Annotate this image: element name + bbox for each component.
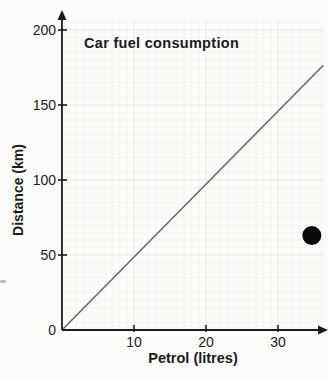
x-tick-label: 10 bbox=[126, 334, 142, 350]
x-tick-label: 20 bbox=[198, 334, 214, 350]
chart-canvas: 102030050100150200 bbox=[0, 0, 328, 381]
scan-artifact-mark bbox=[0, 280, 6, 283]
y-tick-label: 200 bbox=[33, 22, 57, 38]
x-axis-arrowhead bbox=[318, 326, 328, 335]
x-tick-label: 30 bbox=[270, 334, 286, 350]
y-tick-label: 150 bbox=[33, 97, 57, 113]
fuel-consumption-chart: 102030050100150200 Car fuel consumption … bbox=[0, 0, 328, 381]
y-tick-label: 100 bbox=[33, 172, 57, 188]
marked-point bbox=[302, 226, 321, 245]
origin-label: 0 bbox=[48, 322, 56, 338]
y-axis-arrowhead bbox=[58, 10, 67, 20]
y-axis-title: Distance (km) bbox=[10, 144, 26, 236]
y-tick-label: 50 bbox=[40, 247, 56, 263]
chart-title: Car fuel consumption bbox=[84, 35, 239, 51]
x-axis-title: Petrol (litres) bbox=[148, 350, 237, 366]
